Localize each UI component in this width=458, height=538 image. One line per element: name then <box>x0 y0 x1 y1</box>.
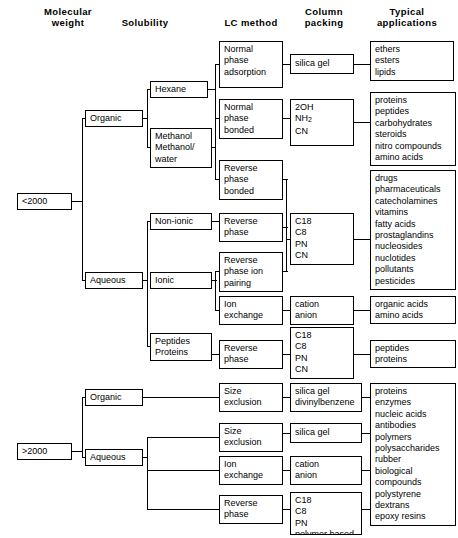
node-lc-ion-exchange: Ion exchange <box>219 296 283 325</box>
node-apps-biomolecules: proteins enzymes nucleic acids antibodie… <box>370 383 456 526</box>
connector-mw-high-bus <box>82 397 83 458</box>
connector-mw-low-bus <box>82 118 83 281</box>
connector-aqueous-high-bus <box>147 437 148 510</box>
connector-aqueous-bus <box>147 221 148 347</box>
node-lc-normal-phase-adsorption: Normal phase adsorption <box>219 41 283 88</box>
node-solubility-aqueous-high: Aqueous <box>85 449 143 466</box>
column-header-4: Typical applications <box>362 6 452 28</box>
node-apps-organic-amino-acids: organic acids amino acids <box>370 296 456 324</box>
node-packing-2oh-nh2-cn: 2OH NH2 CN <box>290 99 354 146</box>
connector-c18-peptides-to-apps <box>354 354 371 355</box>
node-packing-silica-gel-aqueous: silica gel <box>290 423 362 443</box>
node-packing-cation-anion-aqueous: cation anion <box>290 456 362 485</box>
node-packing-c18-c8-pn-cn: C18 C8 PN CN <box>290 213 354 265</box>
node-lc-size-exclusion-aqueous: Size exclusion <box>219 423 283 452</box>
column-header-1: Solubility <box>105 17 185 28</box>
node-apps-drugs-pesticides: drugs pharmaceuticals catecholamines vit… <box>370 170 456 290</box>
node-packing-silica-gel: silica gel <box>290 54 354 74</box>
connector-aqueous-high-to-rp <box>147 509 220 510</box>
connector-aqueous-high-to-ionex <box>147 470 220 471</box>
node-lc-normal-phase-bonded: Normal phase bonded <box>219 99 283 139</box>
connector-hexane-bus <box>215 64 216 119</box>
node-solvent-hexane: Hexane <box>150 81 208 98</box>
connector-ionic-bus <box>215 271 216 311</box>
node-solubility-organic-high: Organic <box>85 389 143 406</box>
node-lc-size-exclusion-organic: Size exclusion <box>219 383 283 412</box>
node-lc-reverse-phase-peptides: Reverse phase <box>219 340 283 369</box>
node-solubility-aqueous-low: Aqueous <box>85 272 143 289</box>
node-solubility-organic-low: Organic <box>85 110 143 127</box>
node-mw-under-2000: <2000 <box>17 193 72 210</box>
node-ionicity-ionic: Ionic <box>150 272 212 289</box>
column-header-0: Molecular weight <box>30 6 106 28</box>
node-apps-ethers-esters-lipids: ethers esters lipids <box>370 41 454 81</box>
node-packing-silica-divinylbenzene: silica gel divinylbenzene <box>290 383 362 412</box>
node-lc-reverse-phase-aqueous: Reverse phase <box>219 495 283 524</box>
connector-rp-to-bus <box>283 227 288 228</box>
node-ionicity-non-ionic: Non-ionic <box>150 213 212 230</box>
column-header-3: Column packing <box>290 6 358 28</box>
node-packing-cation-anion: cation anion <box>290 296 354 325</box>
connector-rpb-to-bus <box>283 179 288 180</box>
connector-cation-to-apps <box>354 310 371 311</box>
node-lc-reverse-phase-ion-pairing: Reverse phase ion pairing <box>219 252 283 292</box>
connector-packing2oh-to-apps <box>354 122 371 123</box>
node-lc-reverse-phase: Reverse phase <box>219 213 283 242</box>
connector-c18-to-apps <box>354 239 371 240</box>
node-apps-proteins-peptides: proteins peptides carbohydrates steroids… <box>370 92 456 166</box>
lc-method-selection-flowchart: Molecular weightSolubilityLC methodColum… <box>0 0 458 538</box>
connector-organic-bus <box>147 89 148 148</box>
node-packing-c18-polymer: C18 C8 PN polymer based <box>290 492 362 535</box>
node-lc-ion-exchange-aqueous: Ion exchange <box>219 456 283 485</box>
node-mw-over-2000: >2000 <box>17 443 72 460</box>
connector-c18-bus <box>286 179 287 272</box>
connector-mw-low-stub <box>72 201 82 202</box>
node-apps-peptides-proteins: peptides proteins <box>370 340 456 368</box>
node-analyte-peptides-proteins: Peptides Proteins <box>150 333 212 361</box>
connector-methanol-bus <box>215 118 216 180</box>
connector-organic-high-to-se <box>143 397 220 398</box>
connector-mw-high-stub <box>72 451 82 452</box>
connector-rpip-to-bus <box>283 271 288 272</box>
connector-silica-to-apps <box>354 64 371 65</box>
node-solvent-methanol: Methanol Methanol/ water <box>150 128 212 168</box>
connector-aqueous-high-to-se <box>147 437 220 438</box>
node-lc-reverse-phase-bonded: Reverse phase bonded <box>219 160 283 200</box>
column-header-2: LC method <box>214 17 288 28</box>
node-packing-c18-peptides: C18 C8 PN CN <box>290 327 354 379</box>
